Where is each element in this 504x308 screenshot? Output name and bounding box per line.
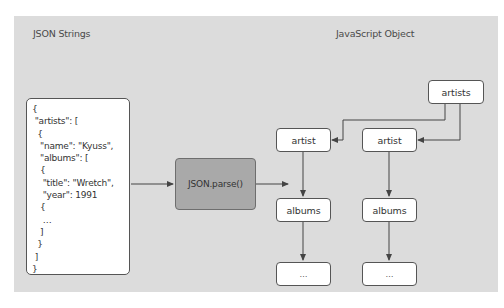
artists-node: artists — [428, 80, 484, 104]
albums-node: albums — [276, 198, 331, 222]
json-parse-box: JSON.parse() — [175, 158, 256, 210]
json-strings-label: JSON Strings — [33, 28, 90, 39]
json-line: … — [32, 214, 114, 226]
json-string-box: { "artists": [ { "name": "Kyuss", "album… — [26, 98, 130, 275]
more-node: … — [276, 262, 331, 286]
json-line: "artists": [ — [32, 115, 114, 127]
json-line: "albums": [ — [32, 152, 114, 164]
json-line: ] — [32, 251, 114, 263]
more-node: … — [362, 262, 417, 286]
albums-node: albums — [362, 198, 417, 222]
json-line: "year": 1991 — [32, 189, 114, 201]
json-code: { "artists": [ { "name": "Kyuss", "album… — [32, 103, 114, 275]
json-line: { — [32, 201, 114, 213]
json-line: { — [32, 128, 114, 140]
artist-node: artist — [276, 128, 331, 152]
json-line: "title": "Wretch", — [32, 177, 114, 189]
artist-node: artist — [362, 128, 417, 152]
json-line: { — [32, 103, 114, 115]
json-line: { — [32, 164, 114, 176]
json-line: } — [32, 238, 114, 250]
json-line: ] — [32, 226, 114, 238]
javascript-object-label: JavaScript Object — [336, 28, 414, 39]
json-line: } — [32, 263, 114, 275]
json-line: "name": "Kyuss", — [32, 140, 114, 152]
